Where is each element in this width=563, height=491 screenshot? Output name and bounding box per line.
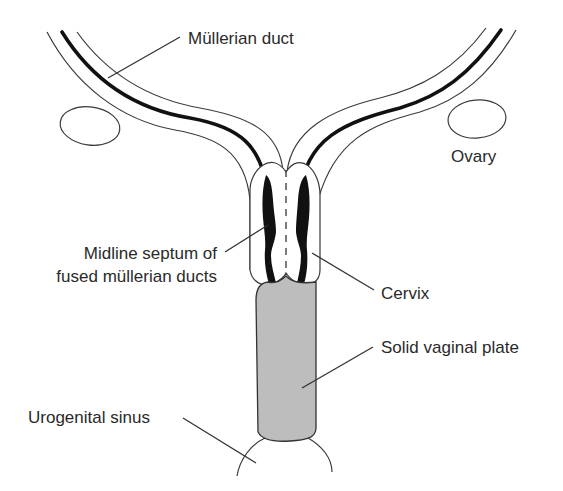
- leader-cervix: [312, 253, 374, 290]
- leader-urogenital-sinus: [183, 418, 256, 463]
- right-ovary: [446, 98, 507, 141]
- mullerian-development-diagram: Müllerian duct Ovary Midline septum of f…: [0, 0, 563, 491]
- cervix-fused-ducts: [250, 162, 320, 284]
- label-urogenital-sinus: Urogenital sinus: [28, 408, 150, 427]
- cervix-outline: [250, 162, 320, 284]
- label-ovary: Ovary: [451, 147, 497, 166]
- label-cervix: Cervix: [381, 284, 430, 303]
- leader-mullerian-duct: [108, 37, 180, 78]
- label-midline-septum-line2: fused müllerian ducts: [56, 267, 217, 286]
- label-solid-vaginal-plate: Solid vaginal plate: [381, 338, 519, 357]
- urogenital-sinus: [237, 438, 332, 476]
- label-mullerian-duct: Müllerian duct: [188, 29, 294, 48]
- label-midline-septum-line1: Midline septum of: [84, 244, 218, 263]
- left-mullerian-duct: [47, 32, 283, 270]
- right-mullerian-duct: [287, 28, 516, 225]
- solid-vaginal-plate: [256, 276, 316, 441]
- left-ovary: [58, 103, 123, 149]
